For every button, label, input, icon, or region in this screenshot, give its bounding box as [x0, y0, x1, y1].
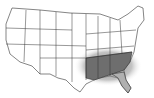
- us-map: [0, 0, 154, 98]
